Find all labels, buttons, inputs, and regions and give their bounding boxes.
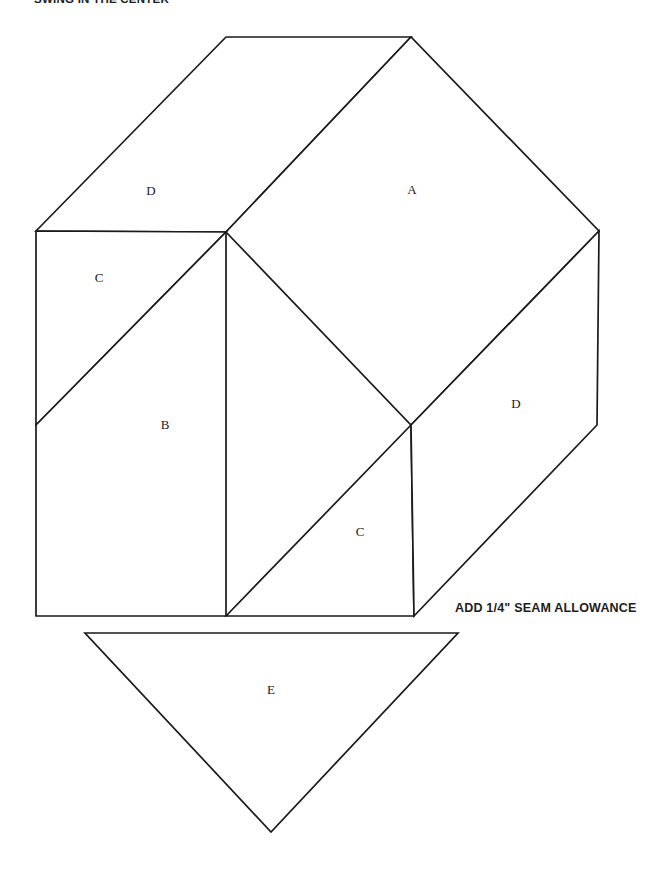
patch-label-e: E (267, 682, 275, 697)
patch-label-d-upper: D (146, 183, 155, 198)
patch-label-b: B (161, 417, 170, 432)
patch-label-c-lower: C (356, 524, 365, 539)
quilt-pattern-diagram: D A C B C D E (0, 0, 655, 883)
patch-c-lower[interactable] (226, 425, 414, 616)
patch-label-a: A (407, 182, 417, 197)
patch-label-c-upper: C (95, 270, 104, 285)
patch-e[interactable] (85, 633, 458, 832)
pattern-page: SWING IN THE CENTER D A C B C D E ADD 1/… (0, 0, 655, 883)
patch-label-d-right: D (511, 396, 520, 411)
seam-allowance-note: ADD 1/4" SEAM ALLOWANCE (455, 601, 637, 615)
